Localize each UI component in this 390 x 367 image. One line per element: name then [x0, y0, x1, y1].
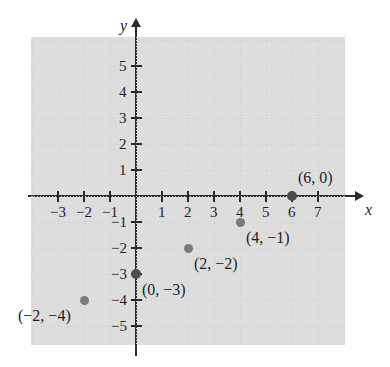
data-point: [184, 244, 193, 253]
y-axis-tick-label: 4: [119, 85, 127, 100]
gridline-horizontal: [31, 300, 345, 301]
x-axis-tick: [83, 191, 85, 202]
data-point-label: (2, −2): [194, 256, 238, 272]
x-axis-tick-label: 1: [158, 205, 166, 220]
y-axis-tick: [131, 247, 142, 249]
y-axis-tick: [131, 117, 142, 119]
x-axis-tick: [187, 191, 189, 202]
x-axis-tick-label: 3: [210, 205, 218, 220]
data-point-label: (4, −1): [246, 230, 290, 246]
data-point-label: (−2, −4): [18, 308, 71, 324]
y-axis-label: y: [120, 18, 127, 34]
data-point: [287, 191, 297, 201]
gridline-vertical: [32, 37, 33, 345]
data-point-label: (0, −3): [142, 282, 186, 298]
y-axis-tick: [131, 91, 142, 93]
y-axis-tick-label: 1: [119, 163, 127, 178]
y-axis-tick-label: −1: [111, 215, 127, 230]
x-axis-tick: [317, 191, 319, 202]
y-axis-tick-label: 5: [119, 59, 127, 74]
x-axis-tick: [265, 191, 267, 202]
y-axis-arrow-icon: [131, 18, 141, 27]
gridline-vertical: [344, 37, 345, 345]
y-axis-tick: [131, 143, 142, 145]
x-axis-tick: [239, 191, 241, 202]
x-axis-tick: [161, 191, 163, 202]
data-point: [236, 218, 245, 227]
gridline-horizontal: [31, 66, 345, 67]
x-axis-tick-label: −2: [76, 205, 92, 220]
y-axis-tick: [131, 221, 142, 223]
x-axis-tick-label: 2: [184, 205, 192, 220]
gridline-horizontal: [31, 92, 345, 93]
y-axis-tick-label: 2: [119, 137, 127, 152]
y-axis-tick: [131, 325, 142, 327]
gridline-horizontal: [31, 222, 345, 223]
y-axis-tick-label: −5: [111, 319, 127, 334]
y-axis-tick: [131, 65, 142, 67]
gridline-horizontal: [31, 40, 345, 41]
y-axis-tick: [131, 169, 142, 171]
x-axis-tick-label: −3: [50, 205, 66, 220]
y-axis-tick-label: −4: [111, 293, 127, 308]
x-axis-tick-label: 5: [262, 205, 270, 220]
x-axis-tick: [57, 191, 59, 202]
x-axis-arrow-icon: [355, 191, 364, 201]
y-axis-tick-label: −2: [111, 241, 127, 256]
y-axis-tick: [131, 299, 142, 301]
gridline-horizontal: [31, 326, 345, 327]
x-axis-tick: [213, 191, 215, 202]
y-axis-tick-label: 3: [119, 111, 127, 126]
x-axis-tick-label: 6: [288, 205, 296, 220]
x-axis-tick: [109, 191, 111, 202]
data-point: [131, 269, 141, 279]
coordinate-plane-figure: x y −3−2−1123456754321−1−2−3−4−5(6, 0)(4…: [0, 0, 390, 367]
x-axis-tick-label: 7: [314, 205, 322, 220]
data-point: [80, 296, 89, 305]
y-axis-tick-label: −3: [111, 267, 127, 282]
gridline-horizontal: [31, 144, 345, 145]
data-point-label: (6, 0): [298, 170, 333, 186]
x-axis-label: x: [365, 202, 372, 218]
gridline-horizontal: [31, 274, 345, 275]
gridline-horizontal: [31, 118, 345, 119]
